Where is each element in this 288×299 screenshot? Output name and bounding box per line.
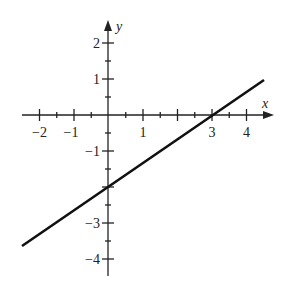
x-axis-label: x [261,96,269,111]
x-axis-arrow-icon [263,111,274,119]
y-tick-label: −3 [85,216,100,231]
x-axis: x −2 −1 1 3 4 [22,96,274,140]
y-tick-label: −1 [85,144,100,159]
plotted-line [22,80,264,246]
y-axis-label: y [114,19,123,34]
x-tick-label: 4 [243,125,250,140]
y-axis-arrow-icon [104,20,112,31]
x-tick-label: 3 [209,125,216,140]
y-axis: y 2 1 −1 −3 −4 [85,19,123,276]
x-tick-label: −2 [32,125,47,140]
y-tick-label: −4 [85,252,100,267]
line-graph: x −2 −1 1 3 4 y 2 1 −1 −3 −4 [0,0,288,299]
y-tick-label: 2 [93,36,100,51]
x-tick-label: −1 [64,125,79,140]
y-tick-label: 1 [93,72,100,87]
x-tick-label: 1 [140,125,147,140]
